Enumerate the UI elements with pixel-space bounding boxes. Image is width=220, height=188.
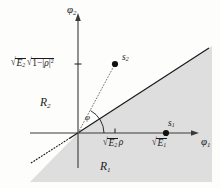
diagram-canvas bbox=[0, 0, 220, 188]
x-tick-label-sqrt-e2-rho: √E2ρ bbox=[103, 137, 123, 148]
y-tick-label: √E2√1−|ρ|2 bbox=[11, 57, 54, 68]
point-s1-marker bbox=[163, 130, 169, 136]
region-r2-label: R2 bbox=[40, 97, 51, 109]
point-s2-label: s2 bbox=[122, 53, 129, 63]
region-r1-label: R1 bbox=[100, 161, 111, 173]
x-label-sqrt-e1: √E1 bbox=[152, 137, 167, 148]
point-s2-marker bbox=[112, 61, 118, 67]
point-s1-label: s1 bbox=[168, 119, 175, 129]
y-axis-label: φ2 bbox=[67, 4, 77, 15]
angle-phi-label: φ bbox=[85, 113, 90, 122]
x-axis-label: φ1 bbox=[201, 136, 211, 147]
shaded-region-r1 bbox=[30, 46, 212, 182]
signal-space-diagram: φ2 φ1 √E2√1−|ρ|2 √E2ρ √E1 s2 s1 R2 R1 φ bbox=[0, 0, 220, 188]
